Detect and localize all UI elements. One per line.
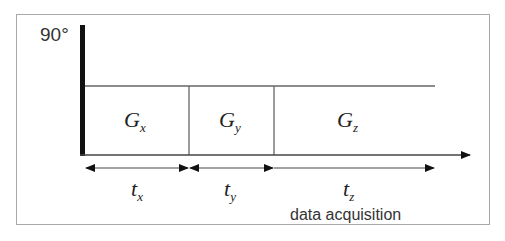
time-x-label: tx <box>131 176 143 205</box>
pulse-sequence-drawing <box>0 0 505 241</box>
time-z-label: tz <box>343 176 354 205</box>
data-acquisition-label: data acquisition <box>290 206 401 224</box>
gradient-x-label: Gx <box>124 107 146 136</box>
gradient-z-label: Gz <box>337 107 358 136</box>
gradient-y-label: Gy <box>219 107 241 136</box>
rf-pulse-label: 90° <box>40 24 69 46</box>
rf-pulse-bar <box>80 25 85 156</box>
time-y-label: ty <box>224 176 236 205</box>
